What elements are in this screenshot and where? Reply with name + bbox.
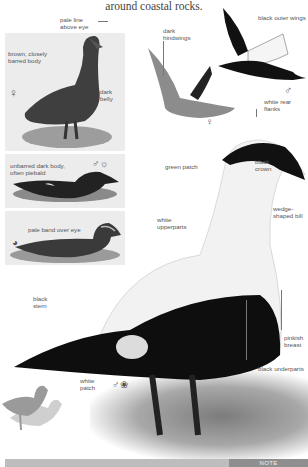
male-breeding-symbol: ♂❀ [112, 380, 128, 390]
female-flight-symbol: ♀ [206, 117, 214, 127]
label-white-upperparts: white upperparts [157, 216, 197, 230]
label-white-rear-flanks: white rear flanks [264, 98, 294, 112]
leader-line [98, 21, 108, 22]
label-dark-hindwings: dark hindwings [163, 27, 203, 41]
leader-line [256, 109, 257, 117]
label-black-crown: black crown [255, 158, 285, 172]
note-tab: NOTE [229, 459, 308, 467]
female-symbol: ♀ [9, 88, 18, 98]
footer-bar [5, 459, 229, 467]
label-black-outer-wings: black outer wings [258, 14, 308, 21]
leader-line [246, 300, 247, 360]
label-green-patch: green patch [165, 163, 215, 170]
label-white-patch: white patch [80, 377, 105, 391]
size-comparison-silhouettes [0, 380, 65, 440]
label-pale-line-above-eye: pale line above eye [60, 16, 100, 30]
label-brown-barred-body: brown, closely barred body [8, 50, 58, 64]
leader-line [163, 41, 164, 76]
label-dark-belly: dark belly [100, 88, 124, 102]
label-black-stern: black stern [33, 295, 58, 309]
label-wedge-shaped-bill: wedge-shaped bill [273, 205, 303, 219]
label-pinkish-breast: pinkish breast [284, 334, 308, 348]
male-flight-symbol: ♂ [284, 85, 292, 95]
label-black-underparts: black underparts [258, 365, 308, 372]
leader-line [281, 290, 282, 330]
